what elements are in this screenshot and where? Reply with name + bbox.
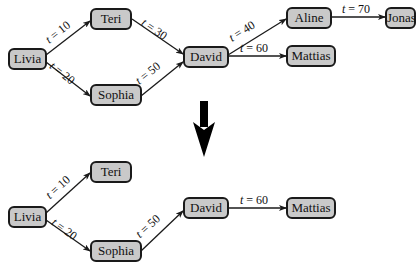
- node-sophia-bottom: Sophia: [90, 240, 142, 262]
- node-david-bottom: David: [183, 197, 229, 219]
- edge-label-david-mattias-bottom: t = 60: [240, 193, 268, 208]
- node-david: David: [183, 46, 229, 68]
- node-livia: Livia: [8, 48, 47, 70]
- node-mattias-bottom: Mattias: [286, 197, 336, 219]
- node-teri: Teri: [90, 8, 132, 30]
- edge-label-david-mattias: t = 60: [240, 41, 268, 56]
- node-teri-bottom: Teri: [90, 161, 132, 183]
- edge-label-aline-jonas: t = 70: [342, 2, 370, 17]
- node-aline: Aline: [286, 7, 332, 29]
- node-mattias: Mattias: [286, 45, 336, 67]
- node-jonas: Jonas: [385, 7, 416, 29]
- node-sophia: Sophia: [90, 84, 142, 106]
- node-livia-bottom: Livia: [8, 206, 47, 228]
- down-arrow-icon: [193, 101, 215, 157]
